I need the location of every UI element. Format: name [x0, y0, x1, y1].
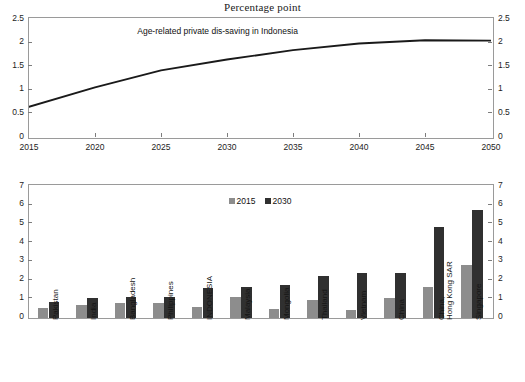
bar-chart-y-tick-left-0: 0: [0, 312, 24, 321]
bar-2015-singapore: [461, 265, 472, 318]
bar-2015-china-hong-kong-sar: [423, 287, 434, 318]
bar-category-label-singapore: Singapore: [475, 284, 483, 320]
bar-chart-y-tick-right-0: 0: [498, 312, 524, 321]
bar-category-label-pakistan: Pakistan: [52, 289, 60, 320]
line-chart-tickmark: [28, 65, 32, 66]
line-chart-y-tick-right-0.5: 0.5: [498, 108, 524, 117]
line-chart-tickmark: [28, 42, 32, 43]
line-chart-panel: Age-related private dis-saving in Indone…: [0, 14, 525, 164]
bar-chart-y-tick-left-7: 7: [0, 181, 24, 190]
bar-chart-tickmark: [488, 222, 492, 223]
bar-chart-y-tick-right-1: 1: [498, 293, 524, 302]
line-chart-tickmark: [28, 89, 32, 90]
bar-chart-bars-layer: [29, 185, 493, 318]
bar-chart-y-tick-right-7: 7: [498, 181, 524, 190]
line-chart-tickmark: [488, 42, 492, 43]
bar-2015-vietnam: [346, 310, 357, 318]
line-chart-tickmark: [28, 112, 32, 113]
bar-chart-y-tick-left-2: 2: [0, 274, 24, 283]
figure-root: Percentage point Age-related private dis…: [0, 0, 525, 382]
line-chart-y-tick-right-0: 0: [498, 132, 524, 141]
line-series-indonesia: [29, 40, 491, 107]
bar-chart-tickmark: [28, 279, 32, 280]
line-chart-x-tickmark: [359, 133, 360, 137]
bar-2015-pakistan: [38, 308, 49, 318]
bar-2015-india: [76, 305, 87, 318]
bar-2015-bangladesh: [115, 303, 126, 318]
bar-category-label-bangladesh: Bangladesh: [129, 278, 137, 320]
bar-2015-china: [384, 298, 395, 318]
bar-chart-tickmark: [488, 297, 492, 298]
bar-category-label-indonesia: INDONESIA: [206, 276, 214, 320]
line-chart-x-tickmark: [161, 133, 162, 137]
bar-chart-y-tick-right-4: 4: [498, 237, 524, 246]
bar-chart-tickmark: [28, 297, 32, 298]
bar-chart-y-tick-left-5: 5: [0, 218, 24, 227]
bar-2015-philippines: [153, 303, 164, 318]
bar-category-label-malaysia: Malaysia: [244, 288, 252, 320]
bar-chart-plot-area: 20152030: [28, 184, 494, 319]
bar-chart-y-tick-left-4: 4: [0, 237, 24, 246]
line-chart-x-tick-2050: 2050: [471, 142, 511, 152]
line-chart-x-tick-2015: 2015: [9, 142, 49, 152]
bar-2015-malaysia: [230, 297, 241, 318]
line-chart-y-tick-right-1: 1: [498, 84, 524, 93]
bar-category-label-philippines: Philippines: [167, 281, 175, 320]
bar-chart-tickmark: [28, 260, 32, 261]
bar-chart-tickmark: [488, 260, 492, 261]
line-chart-x-tickmark: [425, 133, 426, 137]
bar-chart-y-tick-left-6: 6: [0, 199, 24, 208]
bar-chart-y-tick-left-1: 1: [0, 293, 24, 302]
line-chart-y-tick-left-1: 1: [0, 84, 24, 93]
line-chart-x-tick-2045: 2045: [405, 142, 445, 152]
line-chart-y-tick-right-2.5: 2.5: [498, 14, 524, 23]
line-chart-x-tickmark: [227, 133, 228, 137]
bar-2015-indonesia: [192, 307, 203, 318]
line-chart-y-tick-left-1.5: 1.5: [0, 61, 24, 70]
line-chart-x-tick-2020: 2020: [75, 142, 115, 152]
bar-chart-tickmark: [28, 204, 32, 205]
line-chart-y-tick-left-0.5: 0.5: [0, 108, 24, 117]
bar-category-label-china-hong-kong-sar: China, Hong Kong SAR: [438, 261, 455, 320]
bar-category-label-india: India: [90, 303, 98, 320]
bar-chart-y-tick-right-3: 3: [498, 255, 524, 264]
line-chart-x-tick-2035: 2035: [273, 142, 313, 152]
line-chart-x-tick-2025: 2025: [141, 142, 181, 152]
line-chart-tickmark: [488, 65, 492, 66]
bar-chart-y-tick-right-6: 6: [498, 199, 524, 208]
line-chart-tickmark: [488, 112, 492, 113]
bar-chart-tickmark: [488, 279, 492, 280]
line-chart-y-tick-right-2: 2: [498, 37, 524, 46]
line-chart-x-tickmark: [293, 133, 294, 137]
line-chart-annotation: Age-related private dis-saving in Indone…: [137, 26, 298, 36]
line-chart-y-tick-right-1.5: 1.5: [498, 61, 524, 70]
line-chart-x-tickmark: [95, 133, 96, 137]
line-chart-x-tick-2040: 2040: [339, 142, 379, 152]
line-chart-x-tick-2030: 2030: [207, 142, 247, 152]
line-chart-y-tick-left-2: 2: [0, 37, 24, 46]
line-chart-tickmark: [488, 89, 492, 90]
bar-chart-tickmark: [28, 241, 32, 242]
bar-category-label-thailand: Thailand: [321, 289, 329, 320]
bar-category-label-vietnam: Vietnam: [360, 291, 368, 320]
line-chart-plot-area: Age-related private dis-saving in Indone…: [28, 17, 494, 139]
bar-chart-y-tick-right-2: 2: [498, 274, 524, 283]
figure-title: Percentage point: [0, 1, 525, 13]
bar-chart-panel: 20152030 01234567 01234567 PakistanIndia…: [0, 180, 525, 382]
line-chart-y-tick-left-2.5: 2.5: [0, 14, 24, 23]
bar-2015-mongolia: [269, 309, 280, 318]
bar-chart-tickmark: [488, 241, 492, 242]
bar-chart-y-tick-left-3: 3: [0, 255, 24, 264]
bar-chart-tickmark: [488, 204, 492, 205]
bar-category-label-china: China: [398, 299, 406, 320]
bar-category-label-mongolia: Mongolia: [283, 288, 291, 320]
bar-chart-y-tick-right-5: 5: [498, 218, 524, 227]
bar-2015-thailand: [307, 300, 318, 318]
line-chart-y-tick-left-0: 0: [0, 132, 24, 141]
bar-chart-tickmark: [28, 222, 32, 223]
